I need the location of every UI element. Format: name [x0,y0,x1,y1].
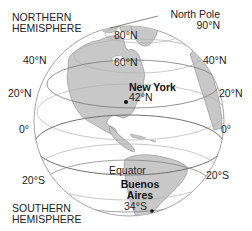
southern-label-line2: HEMISPHERE [12,214,81,225]
equator-label: Equator [109,165,146,176]
northern-hemisphere-label: NORTHERN HEMISPHERE [12,12,81,34]
latitude-label-60n: 60°N [114,57,137,68]
buenos-aires-latitude: 34°S [124,201,147,212]
north-pole-label: North Pole 90°N [158,9,220,31]
latitude-label-40n-right: 40°N [203,55,226,66]
latitude-label-80n: 80°N [114,30,137,41]
latitude-label-20n-right: 20°N [219,88,242,99]
latitude-label-20s-left: 20°S [22,175,45,186]
new-york-dot [124,100,128,104]
latitude-label-20s-right: 20°S [206,170,229,181]
northern-label-line2: HEMISPHERE [12,23,81,34]
new-york-latitude: 42°N [129,92,152,103]
latitude-label-40n-left: 40°N [23,55,46,66]
latitude-label-0-right: 0° [221,124,231,135]
globe-diagram: NORTHERN HEMISPHERE SOUTHERN HEMISPHERE … [0,0,252,231]
north-pole-latitude: 90°N [158,20,220,31]
latitude-label-20n-left: 20°N [8,88,31,99]
latitude-label-0-left: 0° [19,124,29,135]
southern-hemisphere-label: SOUTHERN HEMISPHERE [12,203,81,225]
buenos-aires-dot [150,209,154,213]
